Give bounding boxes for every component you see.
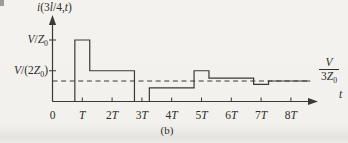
y-axis-arrowhead [49, 15, 56, 25]
x-tick-label-0: 0 [50, 109, 56, 122]
figure-caption: (b) [152, 124, 182, 137]
x-tick-label-8T: 8T [285, 109, 297, 122]
current-step-curve [53, 40, 311, 102]
plot-title: i(3l/4,t) [37, 1, 72, 14]
y-tick-label-v-over-z0: V/Z0 [0, 33, 48, 46]
x-axis-symbol: t [339, 88, 342, 101]
x-tick-label-3T: 3T [136, 109, 148, 122]
x-tick-label-6T: 6T [225, 109, 237, 122]
asymptote-numerator: V [315, 56, 343, 69]
transient-current-figure: i(3l/4,t) V/Z0 V/(2Z0) V 3Z0 t (b) 0T2T3… [0, 0, 348, 143]
y-tick-label-v-over-2z0: V/(2Z0) [0, 64, 48, 77]
x-axis-arrowhead [308, 98, 318, 105]
x-tick-label-4T: 4T [166, 109, 178, 122]
asymptote-denominator: 3Z0 [319, 69, 339, 83]
x-tick-label-7T: 7T [255, 109, 267, 122]
x-tick-label-5T: 5T [195, 109, 207, 122]
x-tick-label-T: T [79, 109, 85, 122]
x-tick-label-2T: 2T [106, 109, 118, 122]
asymptote-value-label: V 3Z0 [315, 56, 343, 83]
